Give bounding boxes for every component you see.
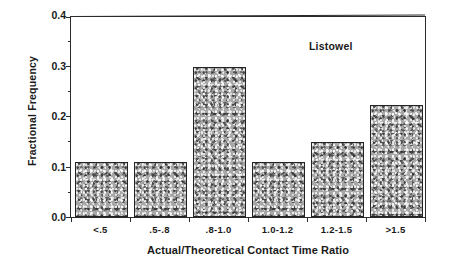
y-tick-major-1 — [66, 167, 71, 168]
x-tick-5 — [366, 217, 367, 222]
x-tick-label-5: >1.5 — [369, 224, 422, 235]
x-tick-label-1: .5-.8 — [133, 224, 186, 235]
y-tick-major-3 — [66, 66, 71, 67]
bar-0-5-0-8 — [134, 162, 187, 217]
x-tick-label-3: 1.0-1.2 — [251, 224, 304, 235]
x-tick-label-0: <.5 — [74, 224, 127, 235]
x-tick-label-2: .8-1.0 — [192, 224, 245, 235]
x-tick-0 — [71, 217, 72, 222]
y-axis-tick-labels: 0.0 0.1 0.2 0.3 0.4 — [38, 0, 66, 264]
x-tick-label-4: 1.2-1.5 — [310, 224, 363, 235]
y-axis-title: Fractional Frequency — [26, 16, 38, 206]
y-tick-major-2 — [66, 116, 71, 117]
y-tick-minor-3 — [68, 41, 71, 42]
bar-1-2-1-5 — [311, 142, 364, 217]
series-annotation-listowel: Listowel — [309, 40, 353, 52]
plot-area: Listowel — [70, 16, 426, 218]
x-tick-2 — [189, 217, 190, 222]
y-tick-label-2: 0.2 — [40, 111, 66, 122]
y-tick-label-0: 0.0 — [40, 212, 66, 223]
bar-lt-0-5 — [75, 162, 128, 217]
x-axis-title: Actual/Theoretical Contact Time Ratio — [70, 244, 426, 256]
y-tick-label-3: 0.3 — [40, 61, 66, 72]
x-tick-4 — [307, 217, 308, 222]
bar-gt-1-5 — [370, 105, 423, 218]
y-tick-minor-0 — [68, 192, 71, 193]
histogram-figure: Fractional Frequency 0.0 0.1 0.2 0.3 0.4 — [0, 0, 450, 264]
x-tick-1 — [130, 217, 131, 222]
y-tick-label-1: 0.1 — [40, 162, 66, 173]
bar-1-0-1-2 — [252, 162, 305, 217]
x-tick-3 — [248, 217, 249, 222]
y-tick-label-4: 0.4 — [40, 10, 66, 21]
bar-0-8-1-0 — [193, 67, 246, 217]
x-tick-6 — [425, 217, 426, 222]
y-tick-minor-1 — [68, 141, 71, 142]
y-tick-major-4 — [66, 17, 71, 18]
y-tick-minor-2 — [68, 91, 71, 92]
